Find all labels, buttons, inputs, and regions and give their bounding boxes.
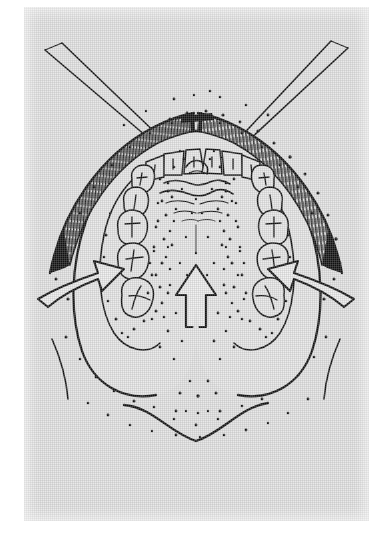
tooth-right-8 [253,278,285,317]
tooth-left-2 [163,151,184,175]
soft-palate-stipple [173,410,220,427]
tooth-right-1 [202,149,222,174]
tooth-left-6 [118,210,148,245]
tooth-right-2 [222,151,243,175]
tooth-left-8 [122,278,154,317]
tooth-right-6 [259,210,289,245]
soft-palate-curve [124,403,268,441]
line-art-canvas [24,7,369,521]
illustration-plate: Maxillary arch — palatal flap elevation … [24,7,369,521]
right-cheek-fold-line [324,339,340,399]
tooth-left-7 [118,243,149,279]
figure-root: Maxillary arch — palatal flap elevation … [0,0,383,549]
left-cheek-fold-line [52,339,68,399]
